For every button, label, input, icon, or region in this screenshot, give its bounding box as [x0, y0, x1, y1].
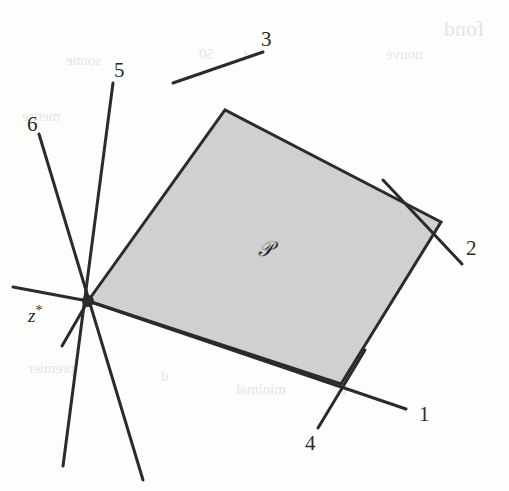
hyperplane-line-3: [173, 52, 263, 83]
vertex-label-z-star: z*: [28, 303, 42, 327]
vertex-layer: [82, 295, 94, 307]
hyperplane-label-4: 4: [305, 431, 316, 456]
hyperplane-2-left-stub: [62, 301, 88, 346]
vertex-point-z-star: [82, 295, 94, 307]
vertex-label-star: *: [35, 303, 42, 318]
hyperplane-label-2: 2: [466, 236, 477, 261]
hyperplane-1-left-stub: [13, 287, 88, 301]
diagram-svg: [0, 0, 509, 491]
polygon-label-P: 𝒫: [258, 237, 273, 262]
figure-canvas: fondsonne504nouvemettre10premierdminimal…: [0, 0, 509, 491]
hyperplane-label-6: 6: [27, 112, 38, 137]
hyperplane-label-1: 1: [419, 402, 430, 427]
hyperplane-label-5: 5: [114, 58, 125, 83]
hyperplane-label-3: 3: [261, 27, 272, 52]
